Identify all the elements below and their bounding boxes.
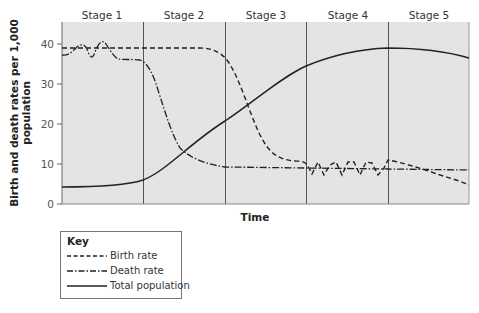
chart-legend: Key Birth rate Death rate Total populati… xyxy=(60,231,182,299)
dashed-line-swatch-icon xyxy=(67,253,107,259)
y-tick-30: 30 xyxy=(41,78,54,90)
stage-4-label: Stage 4 xyxy=(328,9,369,21)
legend-item-death-rate: Death rate xyxy=(67,263,175,278)
legend-label: Birth rate xyxy=(110,250,158,261)
y-tick-0: 0 xyxy=(47,198,54,210)
legend-item-birth-rate: Birth rate xyxy=(67,248,175,263)
legend-label: Total population xyxy=(110,280,190,291)
svg-text:Birth and death rates per 1,00: Birth and death rates per 1,000 xyxy=(8,19,20,207)
stage-3-label: Stage 3 xyxy=(246,9,286,21)
dash-dot-line-swatch-icon xyxy=(67,268,107,274)
legend-item-total-population: Total population xyxy=(67,278,175,293)
legend-title: Key xyxy=(67,235,175,247)
svg-text:population: population xyxy=(20,81,32,145)
plot-area xyxy=(62,22,469,204)
stage-5-label: Stage 5 xyxy=(409,9,449,21)
x-axis-title: Time xyxy=(241,211,270,223)
stage-2-label: Stage 2 xyxy=(164,9,204,21)
y-tick-20: 20 xyxy=(41,118,54,130)
y-axis-title: Birth and death rates per 1,000 populati… xyxy=(8,19,32,207)
solid-line-swatch-icon xyxy=(67,283,107,289)
y-tick-40: 40 xyxy=(41,38,54,50)
legend-label: Death rate xyxy=(110,265,164,276)
stage-1-label: Stage 1 xyxy=(82,9,122,21)
y-tick-10: 10 xyxy=(41,158,54,170)
